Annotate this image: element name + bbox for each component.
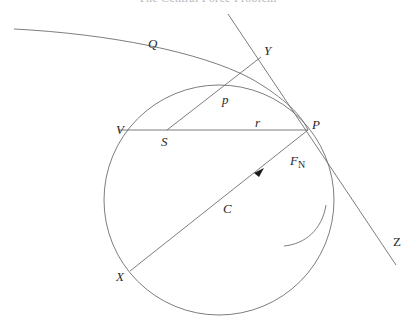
- label-force: FN: [289, 153, 305, 170]
- label-c: C: [223, 201, 232, 216]
- label-z: Z: [393, 234, 401, 249]
- label-p-point: P: [311, 117, 320, 132]
- label-s: S: [161, 134, 168, 149]
- label-q: Q: [148, 36, 158, 51]
- label-force-subscript: N: [298, 159, 305, 170]
- label-y: Y: [264, 43, 273, 58]
- tangent-line-yz: [228, 14, 396, 265]
- label-x: X: [115, 269, 125, 284]
- label-r: r: [255, 115, 261, 130]
- perpendicular-sy: [167, 57, 261, 130]
- label-p-perpendicular: p: [221, 92, 229, 107]
- inner-arc: [284, 205, 326, 246]
- orbit-geometry-diagram: Q Y p V S r P FN C X Z: [0, 0, 415, 330]
- diameter-px: [130, 130, 308, 271]
